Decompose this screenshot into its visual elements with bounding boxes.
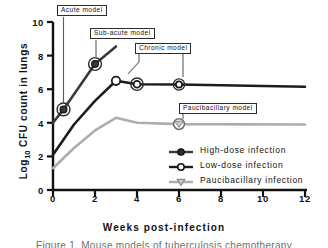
y-axis-title-subscript: 10 (23, 150, 32, 158)
x-tick-4: 4 (134, 193, 140, 204)
legend-item-low-dose: Low-dose infection (168, 157, 328, 172)
marker-low-dose-week6 (173, 79, 184, 90)
marker-high-dose-week2 (89, 58, 102, 71)
marker-low-dose-week3 (112, 77, 120, 85)
y-axis-title-prefix: Log (18, 159, 29, 179)
x-axis-title: Weeks post-infection (0, 222, 328, 233)
x-tick-6: 6 (176, 193, 182, 204)
legend-item-paucibacillary: Paucibacillary infection (168, 172, 328, 187)
annotation-sub-acute-model: Sub-acute model (90, 28, 155, 39)
legend-key-low-dose (168, 159, 194, 171)
x-tick-2: 2 (92, 193, 98, 204)
annotation-paucibacillary-model: Paucibacillary model (179, 103, 257, 114)
leader-chronic-diagonal (128, 62, 139, 74)
legend-label-high-dose: High-dose infection (200, 145, 286, 155)
figure-caption-partial: Figure 1. Mouse models of tuberculosis c… (0, 240, 328, 248)
y-axis-title: Log10 CFU count in lungs (18, 16, 32, 206)
figure-tuberculosis-models: 0 2 4 6 8 10 0 2 4 6 8 10 12 Weeks post-… (0, 0, 328, 248)
legend-item-high-dose: High-dose infection (168, 142, 328, 157)
marker-high-dose-week05 (57, 103, 70, 116)
annotation-acute-model: Acute model (57, 5, 107, 16)
legend-key-paucibacillary (168, 174, 194, 186)
x-tick-0: 0 (50, 193, 56, 204)
legend-label-paucibacillary: Paucibacillary infection (200, 175, 303, 185)
chart-legend: High-dose infection Low-dose infection (168, 142, 328, 187)
filled-circle-icon (178, 148, 184, 154)
legend-label-low-dose: Low-dose infection (200, 160, 283, 170)
open-circle-icon (178, 163, 184, 169)
y-axis-title-suffix: CFU count in lungs (18, 43, 29, 151)
chart-plot-area: 0 2 4 6 8 10 0 2 4 6 8 10 12 Weeks post-… (0, 0, 328, 248)
x-tick-12: 12 (299, 193, 311, 204)
chart-svg (0, 0, 328, 248)
x-tick-10: 10 (257, 193, 269, 204)
x-tick-8: 8 (218, 193, 224, 204)
marker-paucibacillary-week6 (174, 119, 185, 130)
legend-key-high-dose (168, 144, 194, 156)
annotation-chronic-model: Chronic model (135, 43, 191, 54)
